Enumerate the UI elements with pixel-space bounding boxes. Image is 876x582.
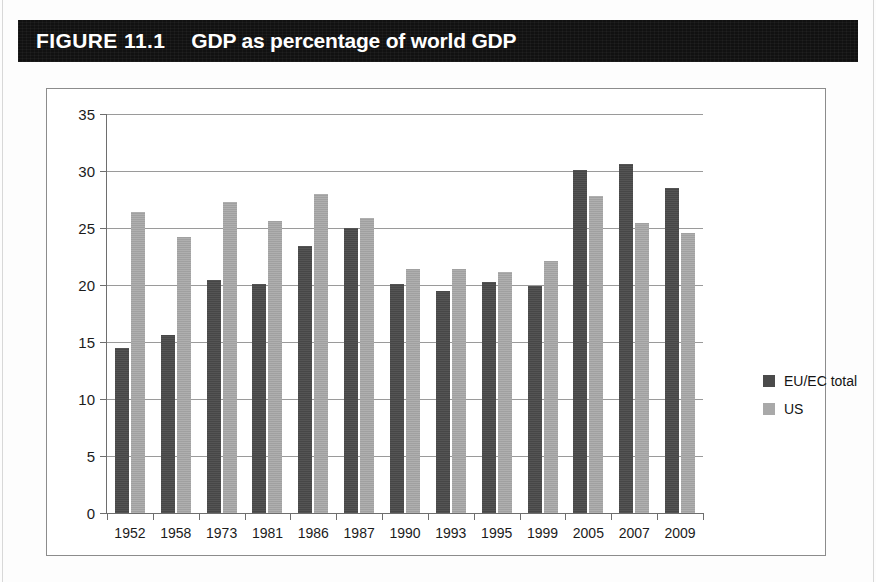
x-axis-tick-label-1958: 1958 xyxy=(160,525,191,541)
x-axis-tick xyxy=(107,513,108,520)
figure-title-banner: FIGURE 11.1 GDP as percentage of world G… xyxy=(18,20,858,62)
y-axis-tick xyxy=(100,513,107,514)
x-axis-tick xyxy=(703,513,704,520)
y-axis-tick xyxy=(100,285,107,286)
bar-us-1990[interactable] xyxy=(406,269,420,513)
bar-us-2005[interactable] xyxy=(589,196,603,513)
x-axis-tick-label-2005: 2005 xyxy=(573,525,604,541)
legend-item-us[interactable]: US xyxy=(763,401,876,417)
bar-eu-ec-total-1995[interactable] xyxy=(482,282,496,513)
page-edge-right xyxy=(873,0,874,582)
bar-eu-ec-total-2007[interactable] xyxy=(619,164,633,513)
legend-swatch-icon-us xyxy=(763,403,775,415)
y-axis-tick xyxy=(100,114,107,115)
gridline xyxy=(107,114,703,115)
y-axis-tick xyxy=(100,171,107,172)
bar-eu-ec-total-1999[interactable] xyxy=(528,286,542,513)
y-axis-tick xyxy=(100,456,107,457)
y-axis-tick-label: 5 xyxy=(87,448,95,465)
gridline xyxy=(107,456,703,457)
bar-us-1958[interactable] xyxy=(177,237,191,513)
bar-us-1973[interactable] xyxy=(223,202,237,513)
y-axis-tick-label: 35 xyxy=(78,106,95,123)
y-axis-tick-label: 15 xyxy=(78,334,95,351)
x-axis-tick-label-2009: 2009 xyxy=(664,525,695,541)
y-axis-tick xyxy=(100,399,107,400)
bar-us-1981[interactable] xyxy=(268,221,282,513)
plot-area: 05101520253035 1952195819731981198619871… xyxy=(107,114,703,513)
x-axis-tick xyxy=(520,513,521,520)
x-axis-tick xyxy=(474,513,475,520)
source-note xyxy=(24,570,852,582)
x-axis-tick xyxy=(290,513,291,520)
bar-us-1993[interactable] xyxy=(452,269,466,513)
gridline xyxy=(107,228,703,229)
x-axis-tick xyxy=(153,513,154,520)
legend-swatch-icon-eu xyxy=(763,375,775,387)
x-axis-tick xyxy=(565,513,566,520)
x-axis-tick xyxy=(657,513,658,520)
x-axis-tick-label-1987: 1987 xyxy=(344,525,375,541)
y-axis-tick xyxy=(100,228,107,229)
legend-label-eu: EU/EC total xyxy=(784,373,857,389)
x-axis-tick-label-1981: 1981 xyxy=(252,525,283,541)
bar-eu-ec-total-1981[interactable] xyxy=(252,284,266,513)
bar-eu-ec-total-2009[interactable] xyxy=(665,188,679,513)
bar-eu-ec-total-1987[interactable] xyxy=(344,228,358,513)
gridline xyxy=(107,342,703,343)
x-axis-tick-label-1973: 1973 xyxy=(206,525,237,541)
bar-eu-ec-total-1986[interactable] xyxy=(298,246,312,513)
y-axis-tick xyxy=(100,342,107,343)
bar-eu-ec-total-1990[interactable] xyxy=(390,284,404,513)
x-axis-tick xyxy=(245,513,246,520)
x-axis-line xyxy=(106,513,703,514)
x-axis-tick-label-1995: 1995 xyxy=(481,525,512,541)
y-axis-tick-label: 20 xyxy=(78,277,95,294)
bar-eu-ec-total-1952[interactable] xyxy=(115,348,129,513)
bar-us-2007[interactable] xyxy=(635,223,649,513)
y-axis-tick-label: 30 xyxy=(78,163,95,180)
x-axis-tick xyxy=(336,513,337,520)
chart-frame: 05101520253035 1952195819731981198619871… xyxy=(46,88,826,556)
bar-eu-ec-total-1993[interactable] xyxy=(436,291,450,513)
y-axis-tick-label: 25 xyxy=(78,220,95,237)
bar-us-1952[interactable] xyxy=(131,212,145,513)
y-axis-tick-label: 0 xyxy=(87,505,95,522)
bar-us-1995[interactable] xyxy=(498,272,512,513)
bar-us-1999[interactable] xyxy=(544,261,558,513)
x-axis-tick-label-2007: 2007 xyxy=(619,525,650,541)
bar-us-1987[interactable] xyxy=(360,218,374,513)
x-axis-tick xyxy=(611,513,612,520)
bar-eu-ec-total-1973[interactable] xyxy=(207,280,221,513)
y-axis-line xyxy=(106,114,107,513)
x-axis-tick-label-1993: 1993 xyxy=(435,525,466,541)
x-axis-tick xyxy=(382,513,383,520)
gridline xyxy=(107,171,703,172)
x-axis-tick xyxy=(428,513,429,520)
x-axis-tick xyxy=(199,513,200,520)
page-edge-left xyxy=(2,0,3,582)
gridline xyxy=(107,399,703,400)
figure-container: FIGURE 11.1 GDP as percentage of world G… xyxy=(0,0,876,582)
bar-eu-ec-total-1958[interactable] xyxy=(161,335,175,513)
legend-label-us: US xyxy=(784,401,803,417)
bar-eu-ec-total-2005[interactable] xyxy=(573,170,587,513)
legend-item-eu-ec-total[interactable]: EU/EC total xyxy=(763,373,876,389)
bar-us-1986[interactable] xyxy=(314,194,328,513)
x-axis-tick-label-1999: 1999 xyxy=(527,525,558,541)
gridline xyxy=(107,285,703,286)
chart-legend: EU/EC total US xyxy=(763,373,876,429)
y-axis-tick-label: 10 xyxy=(78,391,95,408)
bar-us-2009[interactable] xyxy=(681,233,695,513)
x-axis-tick-label-1990: 1990 xyxy=(389,525,420,541)
x-axis-tick-label-1986: 1986 xyxy=(298,525,329,541)
figure-title-text: GDP as percentage of world GDP xyxy=(191,29,516,53)
figure-number-label: FIGURE 11.1 xyxy=(36,29,165,53)
x-axis-tick-label-1952: 1952 xyxy=(114,525,145,541)
